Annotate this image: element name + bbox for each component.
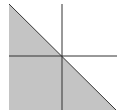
half-plane-diagram xyxy=(0,0,121,110)
